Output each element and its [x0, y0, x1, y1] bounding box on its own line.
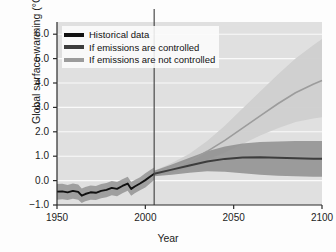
x-tick-label: 2050	[214, 212, 254, 223]
x-axis-label: Year	[0, 232, 336, 244]
legend-swatch-icon	[64, 33, 84, 37]
x-tick-label: 2000	[125, 212, 165, 223]
y-tick-label: 6.0	[19, 28, 49, 39]
y-tick-label: 2.0	[19, 126, 49, 137]
chart-legend: Historical dataIf emissions are controll…	[62, 26, 219, 68]
legend-label: Historical data	[89, 29, 149, 40]
y-tick-label: 1.0	[19, 150, 49, 161]
legend-swatch-icon	[64, 58, 84, 62]
legend-label: If emissions are controlled	[89, 42, 199, 53]
x-tick-label: 1950	[37, 212, 77, 223]
y-tick-label: −1.0	[19, 199, 49, 210]
legend-label: If emissions are not controlled	[89, 54, 215, 65]
legend-item: If emissions are controlled	[64, 41, 215, 53]
legend-swatch-icon	[64, 45, 84, 49]
legend-item: Historical data	[64, 29, 215, 41]
y-tick-label: 3.0	[19, 101, 49, 112]
y-tick-label: 4.0	[19, 77, 49, 88]
climate-warming-chart-figure: Global surface warming (°C) Year 6.05.04…	[0, 0, 336, 252]
y-axis-label-container: Global surface warming (°C)	[26, 0, 42, 138]
x-tick-label: 2100	[302, 212, 336, 223]
y-tick-label: 5.0	[19, 53, 49, 64]
y-tick-label: 0.0	[19, 175, 49, 186]
legend-item: If emissions are not controlled	[64, 54, 215, 66]
